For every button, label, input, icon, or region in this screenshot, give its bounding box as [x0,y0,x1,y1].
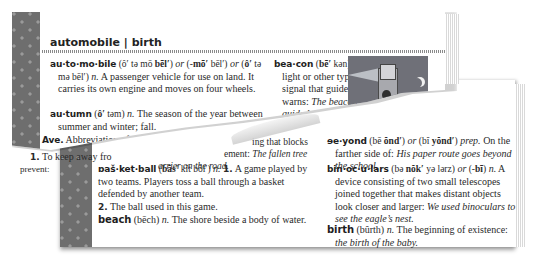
avoid-fragment-example: ement: The fallen tree [224,148,324,161]
headword: ɒaš·ket·ball [98,164,156,174]
lighthouse-lamp-icon [380,64,396,80]
headword: bea·con [274,59,313,69]
headword: beach [98,214,131,225]
headword: Ave. [42,135,64,145]
entry-beach: beach (bēch) n. The shore beside a body … [98,214,321,227]
avoid-fragment-example-2: arrier on the road. [158,160,268,173]
entry-birth: birth (bûrth) n. The beginning of existe… [327,224,521,249]
dotted-rule-divider [42,50,445,53]
entry-automobile: au·to·mo·bile (ô′ tə mō bēl′) or (-mō′ b… [50,58,270,96]
headword: birth [327,224,354,235]
entry-binoculars: bin·oc·u·lars (bə nŏk′ yə lərz) or (-bī)… [327,163,521,226]
running-head: automobile | birth [50,36,435,49]
avoid-fragment-right: ing that blocks [252,136,322,149]
headword: au·to·mo·bile [50,59,116,69]
light-beam-icon [348,68,380,82]
headword: au·tumn [50,109,92,119]
book-spine-top [12,12,40,150]
entry-avoid-line2: prevent: [20,163,80,176]
headword: ɘe·yond [327,136,367,146]
crescent-moon-icon [412,78,422,88]
headword: bin·oc·u·lars [327,164,389,174]
entry-avoid-sense: 1. To keep away fro [30,151,150,164]
page-stack-edge-top [445,14,459,84]
